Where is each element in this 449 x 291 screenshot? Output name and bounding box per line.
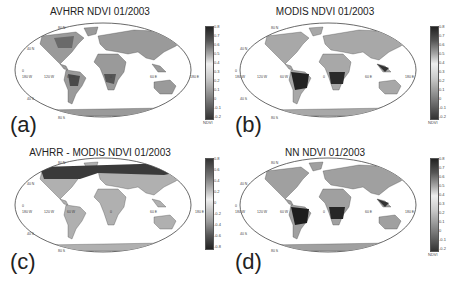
colorbar [430, 158, 439, 252]
world-map [239, 22, 417, 118]
world-map [14, 22, 192, 118]
panel-c: AVHRR - MODIS NDVI 01/2003 0.8 0.6 0.4 0… [0, 145, 224, 290]
colorbar [205, 158, 214, 250]
panel-letter: (d) [235, 249, 262, 275]
world-map [239, 157, 417, 253]
panel-b: MODIS NDVI 01/2003 0.8 0.7 0.6 0.5 0.4 0… [225, 0, 449, 145]
colorbar [205, 26, 214, 120]
colorbar [430, 26, 439, 120]
colorbar-label: NDVI [428, 252, 438, 257]
panel-a: AVHRR NDVI 01/2003 0.8 0.7 0.6 0.5 0.4 0… [0, 0, 224, 145]
colorbar-label: NDVI [203, 120, 213, 125]
panel-title: AVHRR NDVI 01/2003 [0, 6, 200, 17]
panel-letter: (a) [10, 112, 37, 138]
panel-title: MODIS NDVI 01/2003 [225, 6, 425, 17]
panel-letter: (c) [10, 249, 36, 275]
world-map [14, 157, 192, 253]
panel-d: NN NDVI 01/2003 0.8 0.7 0.6 0.5 0.4 0.3 … [225, 145, 449, 290]
colorbar-label: NDVI [428, 120, 438, 125]
panel-letter: (b) [235, 112, 262, 138]
